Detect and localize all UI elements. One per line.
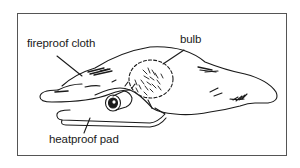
- bulb-shape: [129, 60, 173, 98]
- bulb-under-cloth-illustration: [0, 0, 300, 168]
- leader-bulb: [163, 50, 184, 64]
- fireproof-cloth-shape: [62, 47, 277, 115]
- leader-fireproof-cloth: [57, 56, 82, 76]
- label-fireproof-cloth: fireproof cloth: [27, 38, 95, 50]
- label-heatproof-pad: heatproof pad: [49, 134, 119, 146]
- label-bulb: bulb: [180, 34, 201, 46]
